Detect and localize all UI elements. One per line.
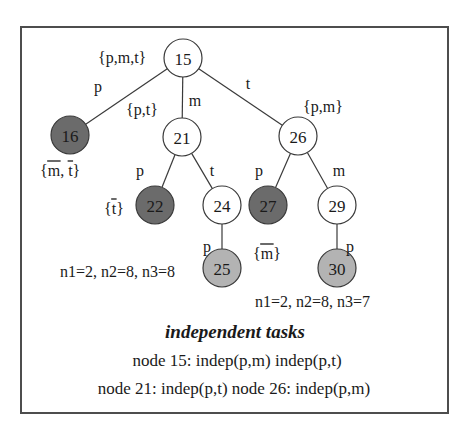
- node-label: 26: [290, 128, 307, 147]
- tree-edge-e26-27: [276, 153, 291, 187]
- tree-node-22[interactable]: 22: [136, 186, 174, 224]
- tree-node-29[interactable]: 29: [318, 186, 356, 224]
- node-label: 22: [147, 197, 164, 216]
- set-label-s15: {p,m,t}: [98, 49, 146, 67]
- tree-node-25[interactable]: 25: [203, 249, 241, 287]
- node-label: 25: [214, 260, 231, 279]
- caption-layer: independent tasks node 15: indep(p,m) in…: [98, 321, 370, 398]
- set-label-text: {p,m,t}: [98, 49, 146, 67]
- node-label: 15: [175, 50, 192, 69]
- edge-label-e29-30: p: [346, 238, 354, 256]
- stats-stat-right: n1=2, n2=8, n3=7: [255, 293, 370, 310]
- set-label-s22: {t}: [104, 199, 124, 217]
- tree-edge-e26-29: [307, 153, 327, 189]
- edge-label-e15-21: m: [189, 92, 202, 109]
- node-label: 21: [174, 129, 191, 148]
- set-label-text: {m, t}: [40, 162, 80, 179]
- set-label-s21: {p,t}: [126, 101, 158, 119]
- edges-layer: [86, 69, 337, 249]
- edge-label-e26-27: p: [255, 162, 263, 180]
- caption-line: node 15: indep(p,m) indep(p,t): [132, 351, 341, 370]
- edge-label-e24-25: p: [203, 238, 211, 256]
- figure-page: 15162126222427292530 pmtptpmpp {p,m,t}{p…: [0, 0, 471, 431]
- tree-edge-e15-21: [182, 77, 183, 118]
- caption-line: node 21: indep(p,t) node 26: indep(p,m): [98, 379, 370, 398]
- tree-node-27[interactable]: 27: [249, 186, 287, 224]
- edge-label-e15-16: p: [94, 78, 102, 96]
- edge-label-e21-24: t: [210, 162, 215, 179]
- tree-node-16[interactable]: 16: [51, 116, 89, 154]
- set-label-text: {t}: [104, 200, 124, 217]
- node-label: 29: [329, 197, 346, 216]
- node-label: 30: [329, 260, 346, 279]
- node-label: 27: [260, 197, 278, 216]
- stats-stat-left: n1=2, n2=8, n3=8: [60, 263, 175, 280]
- edge-label-e26-29: m: [333, 162, 346, 179]
- tree-node-15[interactable]: 15: [164, 39, 202, 77]
- node-label: 16: [62, 127, 79, 146]
- node-label: 24: [214, 197, 232, 216]
- edge-label-e15-26: t: [246, 75, 251, 92]
- tree-node-26[interactable]: 26: [279, 117, 317, 155]
- task-tree-figure: 15162126222427292530 pmtptpmpp {p,m,t}{p…: [0, 0, 471, 431]
- tree-node-30[interactable]: 30: [318, 249, 356, 287]
- set-label-text: {p,t}: [126, 101, 158, 119]
- tree-node-24[interactable]: 24: [203, 186, 241, 224]
- set-label-text: {p,m}: [303, 98, 343, 116]
- set-label-s27: {m}: [253, 244, 281, 262]
- tree-node-21[interactable]: 21: [163, 118, 201, 156]
- tree-edge-e21-22: [162, 155, 175, 188]
- set-label-s16: {m, t}: [40, 161, 80, 179]
- set-label-text: {m}: [253, 245, 281, 262]
- set-label-s26: {p,m}: [303, 98, 343, 116]
- tree-edge-e15-26: [199, 69, 283, 126]
- edge-label-e21-22: p: [136, 162, 144, 180]
- caption-heading: independent tasks: [165, 321, 305, 342]
